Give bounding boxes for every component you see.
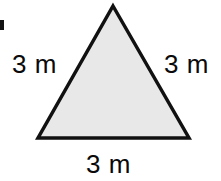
diagram-canvas: 3 m 3 m 3 m (0, 0, 221, 181)
left-side-length-label: 3 m (12, 51, 57, 77)
bottom-side-length-label: 3 m (86, 151, 131, 177)
right-side-length-label: 3 m (164, 51, 209, 77)
scan-edge-mark-icon (0, 20, 4, 30)
